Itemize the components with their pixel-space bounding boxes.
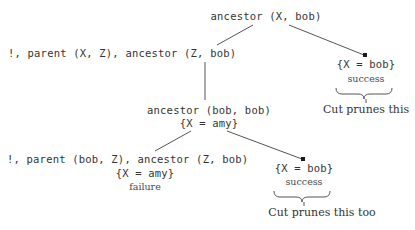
node-level3-left-goal: !, parent (bob, Z), ancestor (Z, bob)	[7, 153, 248, 165]
node-level3-right-binding: {X = bob}	[275, 162, 334, 174]
upper-brace	[336, 88, 392, 99]
edge-level2-to-left	[155, 131, 191, 151]
caption-upper: Cut prunes this	[323, 103, 409, 116]
success-marker-lower	[301, 157, 305, 161]
node-level1-left-goal: !, parent (X, Z), ancestor (Z, bob)	[8, 47, 236, 59]
search-tree-figure: ancestor (X, bob) !, parent (X, Z), ance…	[0, 0, 415, 230]
node-level3-left-binding: {X = amy}	[116, 167, 175, 179]
node-root-goal: ancestor (X, bob)	[211, 10, 322, 22]
node-level1-right-status: success	[347, 73, 384, 84]
node-level3-right-status: success	[285, 176, 322, 187]
node-level2-goal: ancestor (bob, bob)	[147, 104, 271, 116]
caption-lower: Cut prunes this too	[268, 206, 375, 219]
node-level2-binding: {X = amy}	[180, 117, 239, 129]
edge-root-to-left	[217, 25, 253, 45]
node-level3-left-status: failure	[129, 181, 161, 192]
node-level1-right-binding: {X = bob}	[337, 58, 396, 70]
success-marker-upper	[363, 53, 367, 57]
lower-brace	[274, 191, 330, 202]
edge-root-to-right	[289, 25, 364, 55]
